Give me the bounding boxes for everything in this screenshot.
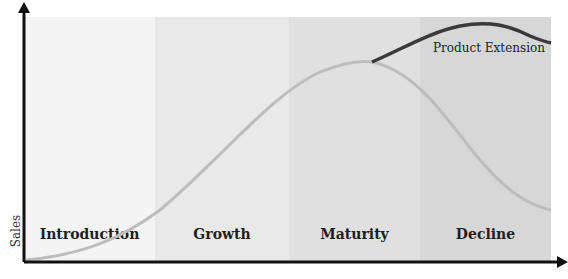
product-extension-label: Product Extension <box>433 41 545 55</box>
y-axis-label: Sales <box>9 211 23 251</box>
sales-curve <box>26 61 551 260</box>
y-axis-arrow-icon <box>18 2 30 13</box>
x-axis-arrow-icon <box>557 256 568 268</box>
